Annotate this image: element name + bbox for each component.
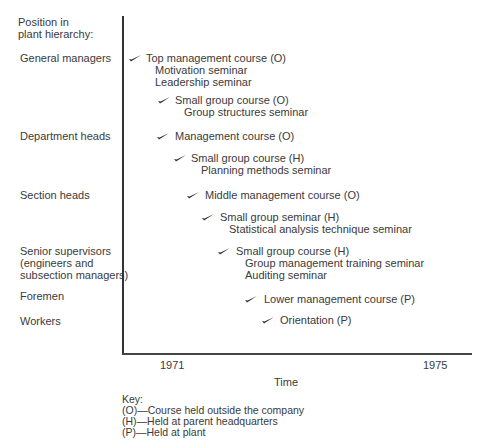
x-tick-1975: 1975 [423,359,447,371]
level-department-heads: Department heads [20,130,111,142]
level-general-managers: General managers [20,52,111,64]
check-mark-icon [217,247,231,255]
level-senior-supervisors: Senior supervisors (engineers and subsec… [20,245,128,281]
level-section-heads: Section heads [20,189,90,201]
check-mark-icon [173,154,187,162]
course-sub: Motivation seminar [146,64,286,76]
course-entry: Small group seminar (H) Statistical anal… [220,211,412,235]
course-sub: Auditing seminar [236,269,424,281]
level-senior-supervisors-line-3: subsection managers) [20,269,128,281]
legend-key: Key: (O)—Course held outside the company… [122,394,304,438]
course-entry: Management course (O) [175,130,294,142]
course-sub: Statistical analysis technique seminar [220,223,412,235]
check-mark-icon [244,295,258,303]
course-title: Small group course (H) [236,245,424,257]
course-sub: Group structures seminar [175,106,308,118]
course-entry: Top management course (O) Motivation sem… [146,52,286,88]
check-mark-icon [156,132,170,140]
course-entry: Small group course (H) Planning methods … [191,152,331,176]
course-entry: Middle management course (O) [205,189,360,201]
y-axis-line [122,16,124,354]
course-entry: Orientation (P) [280,314,352,326]
course-entry: Lower management course (P) [264,293,415,305]
level-foremen: Foremen [20,290,64,302]
course-title: Orientation (P) [280,314,352,326]
y-axis-title-line-2: plant hierarchy: [18,28,93,40]
course-sub: Group management training seminar [236,257,424,269]
level-workers: Workers [20,315,61,327]
check-mark-icon [157,96,171,104]
legend-item-plant: (P)—Held at plant [122,427,304,438]
course-title: Small group course (O) [175,94,308,106]
check-mark-icon [201,213,215,221]
y-axis-title: Position in plant hierarchy: [18,16,93,40]
check-mark-icon [186,191,200,199]
course-entry: Small group course (H) Group management … [236,245,424,281]
course-title: Small group course (H) [191,152,331,164]
course-title: Middle management course (O) [205,189,360,201]
y-axis-title-line-1: Position in [18,16,93,28]
level-senior-supervisors-line-1: Senior supervisors [20,245,128,257]
x-axis-line [122,353,472,355]
check-mark-icon [128,54,142,62]
course-sub: Leadership seminar [146,76,286,88]
course-title: Management course (O) [175,130,294,142]
course-sub: Planning methods seminar [191,164,331,176]
course-title: Top management course (O) [146,52,286,64]
x-tick-1971: 1971 [160,359,184,371]
course-title: Small group seminar (H) [220,211,412,223]
course-title: Lower management course (P) [264,293,415,305]
x-axis-title: Time [274,376,298,388]
level-senior-supervisors-line-2: (engineers and [20,257,128,269]
course-entry: Small group course (O) Group structures … [175,94,308,118]
check-mark-icon [261,316,275,324]
